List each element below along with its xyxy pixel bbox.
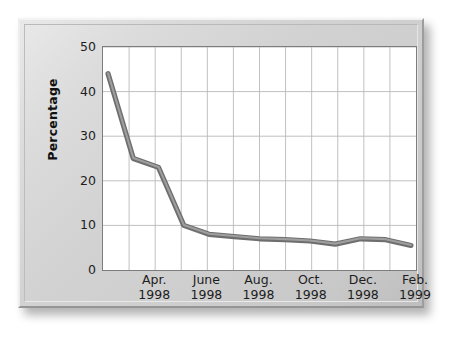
y-tick-label: 50 xyxy=(70,41,96,54)
y-tick-label: 40 xyxy=(70,86,96,99)
x-tick-month: Dec. xyxy=(335,273,391,288)
x-tick-month: Apr. xyxy=(126,273,182,288)
x-axis-tick-labels: Apr. 1998 June 1998 Aug. 1998 Oct. 1998 … xyxy=(102,273,415,307)
x-tick-year: 1999 xyxy=(387,288,443,303)
y-axis-tick-labels: 50 40 30 20 10 0 xyxy=(68,46,96,269)
x-tick-label: Oct. 1998 xyxy=(283,273,339,303)
x-tick-year: 1998 xyxy=(126,288,182,303)
chart-frame: Percentage 50 40 30 20 10 0 Apr. 1998 Ju… xyxy=(18,18,424,308)
x-tick-month: Oct. xyxy=(283,273,339,288)
x-tick-month: June xyxy=(178,273,234,288)
plot-area xyxy=(102,46,417,271)
x-tick-label: Apr. 1998 xyxy=(126,273,182,303)
x-tick-label: June 1998 xyxy=(178,273,234,303)
x-tick-label: Dec. 1998 xyxy=(335,273,391,303)
chart-canvas xyxy=(103,47,416,270)
x-tick-month: Aug. xyxy=(231,273,287,288)
x-tick-month: Feb. xyxy=(387,273,443,288)
x-tick-label: Feb. 1999 xyxy=(387,273,443,303)
x-tick-year: 1998 xyxy=(231,288,287,303)
y-tick-label: 30 xyxy=(70,130,96,143)
x-tick-year: 1998 xyxy=(335,288,391,303)
y-tick-label: 0 xyxy=(70,264,96,277)
y-tick-label: 10 xyxy=(70,219,96,232)
y-axis-title: Percentage xyxy=(45,70,60,170)
y-tick-label: 20 xyxy=(70,175,96,188)
x-tick-year: 1998 xyxy=(283,288,339,303)
x-tick-year: 1998 xyxy=(178,288,234,303)
x-tick-label: Aug. 1998 xyxy=(231,273,287,303)
